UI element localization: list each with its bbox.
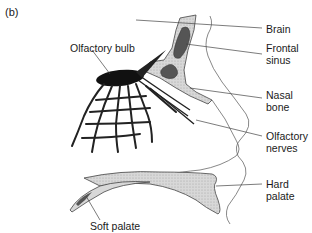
- label-nasal-bone-2: bone: [266, 101, 289, 113]
- label-olfactory-nerves-2: nerves: [266, 142, 298, 154]
- label-olfactory-bulb: Olfactory bulb: [70, 42, 135, 54]
- olfactory-nerve-web: [72, 84, 176, 152]
- label-nasal-bone-1: Nasal: [266, 89, 293, 101]
- panel-label: (b): [5, 6, 18, 18]
- label-hard-palate-2: palate: [266, 190, 295, 202]
- hard-palate: [84, 172, 220, 214]
- label-soft-palate: Soft palate: [90, 220, 140, 232]
- label-olfactory-nerves-1: Olfactory: [266, 130, 308, 142]
- label-frontal-sinus-1: Frontal: [266, 42, 299, 54]
- soft-palate: [70, 182, 150, 213]
- label-hard-palate-1: Hard: [266, 178, 289, 190]
- label-brain: Brain: [266, 23, 291, 35]
- label-frontal-sinus-2: sinus: [266, 54, 291, 66]
